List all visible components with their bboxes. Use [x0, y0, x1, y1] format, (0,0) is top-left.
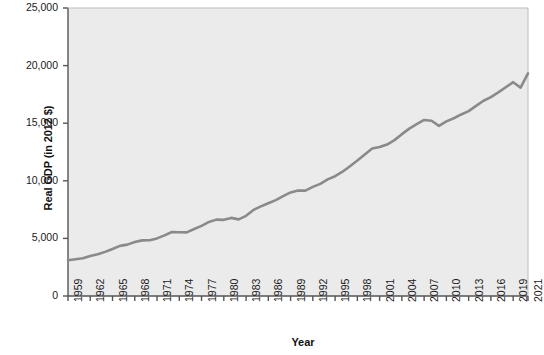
plot-background: [68, 8, 528, 296]
x-tick-label: 1968: [139, 279, 151, 302]
x-tick-label: 1989: [295, 279, 307, 302]
y-tick-label: 25,000: [26, 2, 58, 13]
x-tick-label: 2007: [428, 279, 440, 302]
x-tick-label: 1971: [161, 279, 173, 302]
x-tick-label: 1977: [206, 279, 218, 302]
x-tick-label: 1959: [72, 279, 84, 302]
x-tick-label: 1962: [94, 279, 106, 302]
x-tick-label: 2021: [532, 279, 544, 302]
x-tick-label: 2019: [517, 279, 529, 302]
y-tick-label: 0: [52, 290, 58, 301]
x-tick-label: 1965: [117, 279, 129, 302]
x-axis-title-text: Year: [291, 336, 314, 348]
x-tick-label: 2001: [384, 279, 396, 302]
x-tick-label: 1980: [228, 279, 240, 302]
x-tick-label: 2004: [406, 279, 418, 302]
x-tick-label: 2013: [473, 279, 485, 302]
x-tick-label: 2010: [450, 279, 462, 302]
x-tick-label: 1992: [317, 279, 329, 302]
x-tick-label: 1986: [272, 279, 284, 302]
y-axis-title: Real GDP (in 2012 $): [42, 58, 54, 258]
x-tick-label: 1983: [250, 279, 262, 302]
x-axis-title: Year: [0, 336, 540, 348]
x-tick-label: 1998: [361, 279, 373, 302]
y-tick-marks: [63, 8, 68, 296]
x-tick-label: 2016: [495, 279, 507, 302]
x-tick-label: 1995: [339, 279, 351, 302]
x-tick-label: 1974: [183, 279, 195, 302]
